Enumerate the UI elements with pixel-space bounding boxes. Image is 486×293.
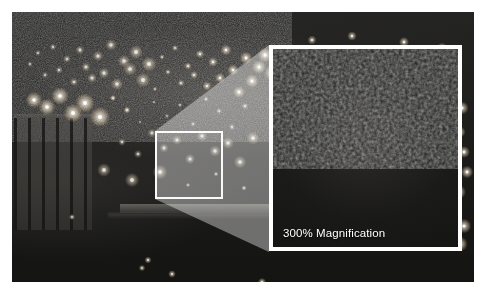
screenshot-canvas: 300% Magnification: [0, 0, 486, 293]
magnification-label: 300% Magnification: [283, 227, 385, 239]
magnification-grain-layer-dark: [269, 45, 462, 169]
night-cityscape-photo: 300% Magnification: [12, 12, 474, 282]
selection-box[interactable]: [155, 131, 223, 199]
building-facade: [14, 118, 92, 230]
magnification-panel[interactable]: 300% Magnification: [269, 45, 462, 251]
